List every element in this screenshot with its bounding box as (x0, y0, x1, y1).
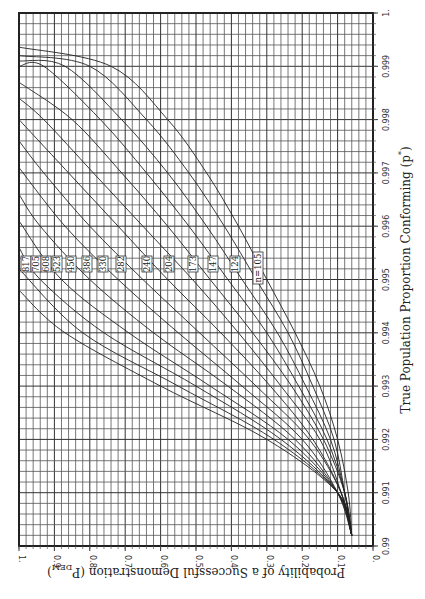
x-axis-ticks: 0.990.9910.9920.9930.9940.9950.9960.9970… (373, 9, 391, 555)
curve-label: 608 (41, 256, 51, 272)
curve-label: 450 (66, 256, 76, 272)
svg-text:608: 608 (41, 256, 51, 272)
x-tick-label: 0.995 (382, 268, 391, 291)
plot-grid (19, 13, 373, 546)
svg-text:282: 282 (116, 256, 126, 272)
x-tick-label: 1. (382, 9, 391, 17)
svg-text:386: 386 (82, 256, 92, 272)
svg-text:173: 173 (188, 256, 198, 272)
x-tick-label: 0.993 (382, 375, 391, 398)
x-tick-label: 0.998 (382, 108, 391, 131)
curve-label: 282 (116, 256, 126, 272)
y-axis-label: Probability of a Successful Demonstratio… (47, 563, 345, 579)
oc-curve-chart: 817705608523450386330282240204173147124n… (0, 0, 425, 599)
svg-text:124: 124 (230, 256, 240, 272)
svg-text:523: 523 (52, 256, 62, 272)
curve-label: 386 (82, 256, 92, 272)
svg-text:330: 330 (98, 256, 108, 272)
curve-label: 173 (188, 256, 198, 272)
x-axis-label: True Population Proportion Conforming (p… (397, 146, 413, 413)
x-tick-label: 0.994 (382, 321, 391, 344)
curve-label: 705 (31, 256, 41, 272)
curve-label: 147 (208, 256, 218, 272)
x-tick-label: 0.991 (382, 481, 391, 504)
svg-text:204: 204 (164, 256, 174, 272)
svg-text:705: 705 (31, 256, 41, 272)
x-tick-label: 0.999 (382, 55, 391, 78)
curve-label: 124 (230, 256, 240, 272)
svg-text:147: 147 (208, 256, 218, 272)
x-tick-label: 0.992 (382, 428, 391, 451)
y-tick-label: 1. (17, 555, 26, 563)
svg-text:n=105: n=105 (253, 254, 263, 283)
curve-label: 523 (52, 256, 62, 272)
curve-label: 204 (164, 256, 174, 272)
svg-text:817: 817 (21, 256, 31, 272)
x-tick-label: 0.99 (382, 537, 391, 555)
y-tick-label: 0. (371, 555, 380, 563)
curve-label: 240 (142, 256, 152, 272)
x-tick-label: 0.996 (382, 215, 391, 238)
curve-label: 817 (21, 256, 31, 272)
svg-text:450: 450 (66, 256, 76, 272)
x-tick-label: 0.997 (382, 161, 391, 184)
curve-label: 330 (98, 256, 108, 272)
curve-label: n=105 (253, 252, 263, 284)
svg-text:240: 240 (142, 256, 152, 272)
